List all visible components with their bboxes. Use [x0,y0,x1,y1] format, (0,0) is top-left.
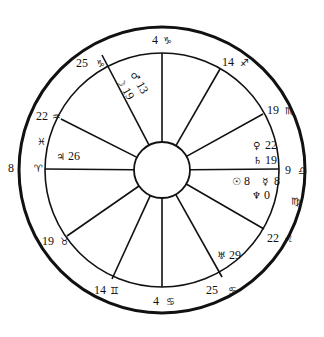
cusp-label-h5: 25♋ [206,283,237,297]
cusp-label-h8: 19♏ [267,103,294,117]
cusp-degree: 4 [153,294,159,308]
venus-icon: ♀ [253,140,260,151]
aquarius-icon: ♒ [52,111,61,122]
cusp-degree: 25 [206,283,218,297]
planet-sun: ☉8 [232,174,250,188]
taurus-icon: ♉ [60,236,69,247]
planet-degree: 19 [265,153,277,167]
cusp-label-h9: 14♐ [222,55,249,69]
scorpio-icon: ♏ [285,105,294,116]
planet-degree: 8 [244,174,250,188]
cusp-degree: 9 [285,163,291,177]
cusp-label-dsc: 9♎ [285,163,307,177]
cusp-label-h12: 22♒ [36,109,61,123]
jupiter-icon: ♃ [56,151,65,162]
planet-degree: 0 [264,188,270,202]
cusp-line-asc [45,169,134,170]
planet-saturn: ♄19 [253,153,277,167]
cusp-line-dsc [190,169,279,170]
cusp-degree: 19 [42,234,54,248]
mars-icon: ♂ [128,70,142,83]
cusp-label-ic: 4♋ [153,294,175,308]
aries-icon: ♈ [34,163,43,174]
cusp-degree: 22 [36,109,48,123]
chart-wheel: 8♈19♉14♊4♋25♋22♌9♎19♏14♐4♑25♑22♒ ♓♍ ♂13☽… [0,0,324,337]
capricorn-icon: ♑ [163,35,172,46]
cusp-line-h5 [176,194,222,277]
cusp-label-h6: 22♌ [267,231,293,245]
moon-icon: ☽ [114,76,128,89]
planet-degree: 22 [265,138,277,152]
mercury-icon: ☿ [262,176,268,187]
planet-degree: 8 [274,174,280,188]
cusp-degree: 14 [222,55,234,69]
planet-uranus: ♅29 [217,248,241,262]
cancer-icon: ♋ [166,296,175,307]
cusp-label-h11: 25♑ [76,56,105,70]
sagittarius-icon: ♐ [240,57,249,68]
cusp-degree: 25 [76,56,88,70]
cusp-line-h9 [176,69,220,146]
cusp-degree: 19 [267,103,279,117]
gemini-icon: ♊ [110,285,119,296]
sun-icon: ☉ [232,176,241,187]
planet-degree: 26 [68,149,80,163]
capricorn-icon: ♑ [96,58,105,69]
cusp-degree: 4 [152,33,158,47]
virgo-icon: ♍ [291,196,300,207]
saturn-icon: ♄ [253,155,262,166]
planet-neptune: ♆0 [252,188,270,202]
cusp-label-h2: 19♉ [42,234,69,248]
libra-icon: ♎ [298,165,307,176]
cusp-degree: 22 [267,231,279,245]
planet-degree: 29 [229,248,241,262]
pisces-icon: ♓ [37,136,46,147]
uranus-icon: ♅ [217,250,226,261]
cancer-icon: ♋ [228,285,237,296]
neptune-icon: ♆ [252,190,261,201]
cusp-label-asc: 8♈ [8,161,43,175]
cusp-label-mc: 4♑ [152,33,172,47]
cusp-line-h3 [112,195,150,279]
planet-mercury: ☿8 [262,174,280,188]
center-hub [134,142,190,198]
cusp-line-h2 [67,186,139,236]
cusp-degree: 8 [8,161,14,175]
planet-jupiter: ♃26 [56,149,80,163]
planet-venus: ♀22 [253,138,277,152]
cusp-line-h8 [186,114,263,156]
leo-icon: ♌ [284,233,293,244]
cusp-label-h3: 14♊ [94,283,119,297]
cusp-degree: 14 [94,283,106,297]
